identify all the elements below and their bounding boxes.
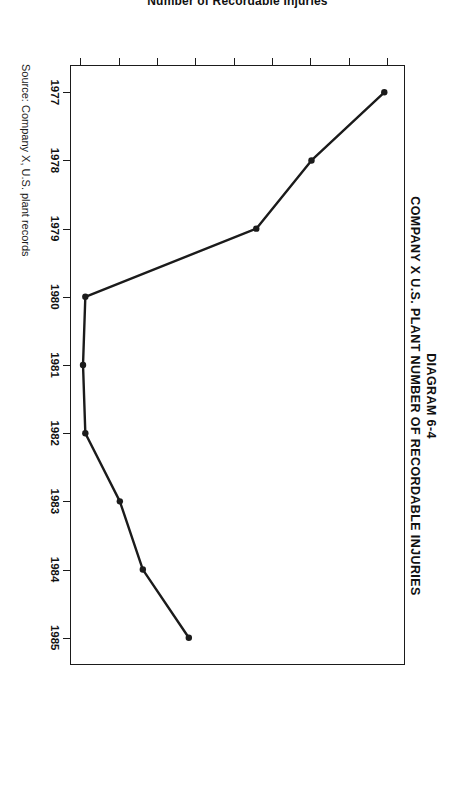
y-axis-tick bbox=[310, 58, 311, 65]
x-axis-tick-label: 1980 bbox=[49, 284, 61, 310]
x-axis-tick-label: 1984 bbox=[49, 557, 61, 583]
x-axis-tick bbox=[63, 92, 70, 93]
chart-title-block: DIAGRAM 6-4 COMPANY X U.S. PLANT NUMBER … bbox=[407, 0, 438, 792]
y-axis-tick bbox=[349, 58, 350, 65]
x-axis-tick-label: 1985 bbox=[49, 625, 61, 651]
x-axis-tick bbox=[63, 638, 70, 639]
data-point-marker bbox=[117, 498, 123, 504]
plot-area bbox=[70, 65, 405, 665]
x-axis-tick-label: 1979 bbox=[49, 216, 61, 242]
data-point-marker bbox=[381, 89, 387, 95]
data-point-marker bbox=[308, 157, 314, 163]
x-axis-tick-label: 1978 bbox=[49, 148, 61, 174]
y-axis-tick bbox=[119, 58, 120, 65]
y-axis-tick bbox=[387, 58, 388, 65]
rotated-figure-stage: DIAGRAM 6-4 COMPANY X U.S. PLANT NUMBER … bbox=[0, 0, 456, 792]
line-series-svg bbox=[70, 65, 405, 665]
y-axis-tick bbox=[234, 58, 235, 65]
y-axis-tick bbox=[196, 58, 197, 65]
data-point-marker bbox=[186, 635, 192, 641]
diagram-number: DIAGRAM 6-4 bbox=[423, 0, 438, 792]
y-axis-tick bbox=[81, 58, 82, 65]
y-axis-title: Number of Recordable Injuries bbox=[70, 0, 405, 12]
x-axis-tick-label: 1982 bbox=[49, 420, 61, 446]
data-point-marker bbox=[82, 294, 88, 300]
figure: DIAGRAM 6-4 COMPANY X U.S. PLANT NUMBER … bbox=[0, 0, 456, 792]
x-axis: 197719781979198019811982198319841985 bbox=[36, 65, 70, 665]
x-axis-tick bbox=[63, 433, 70, 434]
x-axis-tick bbox=[63, 160, 70, 161]
data-line bbox=[83, 92, 384, 637]
chart-title: COMPANY X U.S. PLANT NUMBER OF RECORDABL… bbox=[407, 0, 423, 792]
x-axis-tick bbox=[63, 297, 70, 298]
x-axis-tick bbox=[63, 501, 70, 502]
x-axis-tick bbox=[63, 365, 70, 366]
x-axis-tick bbox=[63, 570, 70, 571]
data-point-marker bbox=[80, 362, 86, 368]
y-axis-tick bbox=[272, 58, 273, 65]
data-point-marker bbox=[82, 430, 88, 436]
source-note: Source: Company X, U.S. plant records bbox=[20, 64, 32, 257]
y-axis-tick bbox=[157, 58, 158, 65]
x-axis-tick bbox=[63, 229, 70, 230]
x-axis-tick-label: 1977 bbox=[49, 79, 61, 105]
data-point-marker bbox=[253, 225, 259, 231]
x-axis-tick-label: 1983 bbox=[49, 489, 61, 515]
x-axis-tick-label: 1981 bbox=[49, 352, 61, 378]
data-point-marker bbox=[140, 566, 146, 572]
